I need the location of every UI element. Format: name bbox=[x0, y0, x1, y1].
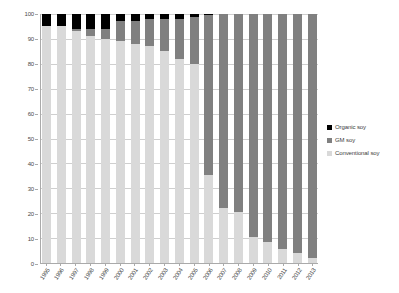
bar-segment-gm-soy bbox=[145, 19, 154, 46]
bar-segment-organic-soy bbox=[57, 14, 66, 26]
bar-2013 bbox=[308, 14, 317, 263]
bar-2007 bbox=[219, 14, 228, 263]
x-axis-tick-mark bbox=[238, 263, 239, 266]
plot-area bbox=[40, 14, 318, 264]
bar-1997 bbox=[72, 14, 81, 263]
bar-segment-gm-soy bbox=[204, 15, 213, 174]
bar-2002 bbox=[145, 14, 154, 263]
x-axis-tick-mark bbox=[253, 263, 254, 266]
bar-segment-conventional-soy bbox=[57, 26, 66, 263]
bar-1996 bbox=[57, 14, 66, 263]
y-axis-tick-mark bbox=[35, 214, 38, 215]
x-axis-label-slot: 2005 bbox=[189, 266, 198, 293]
x-axis-label-slot: 2009 bbox=[249, 266, 258, 293]
x-axis-label-slot: 2001 bbox=[130, 266, 139, 293]
x-axis-tick-label: 2008 bbox=[231, 267, 243, 281]
y-axis-tick-label: 10 bbox=[28, 236, 34, 242]
y-axis-tick-mark bbox=[35, 89, 38, 90]
bar-segment-organic-soy bbox=[131, 14, 140, 21]
bar-2012 bbox=[293, 14, 302, 263]
bar-segment-conventional-soy bbox=[86, 36, 95, 263]
bar-segment-conventional-soy bbox=[263, 242, 272, 263]
x-axis-label-slot: 2006 bbox=[204, 266, 213, 293]
legend-item-organic-soy[interactable]: Organic soy bbox=[327, 124, 399, 130]
legend-item-label: GM soy bbox=[335, 137, 355, 143]
y-axis-tick-label: 60 bbox=[28, 111, 34, 117]
y-axis-tick-mark bbox=[35, 239, 38, 240]
x-axis-tick-label: 2005 bbox=[187, 267, 199, 281]
bar-2009 bbox=[249, 14, 258, 263]
bar-segment-conventional-soy bbox=[278, 249, 287, 263]
x-axis-label-slot: 1999 bbox=[100, 266, 109, 293]
bar-segment-gm-soy bbox=[116, 21, 125, 41]
x-axis-tick-mark bbox=[90, 263, 91, 266]
bar-2005 bbox=[190, 14, 199, 263]
x-axis-label-slot: 2011 bbox=[278, 266, 287, 293]
bar-segment-conventional-soy bbox=[190, 64, 199, 263]
y-axis-tick-label: 20 bbox=[28, 211, 34, 217]
bar-1998 bbox=[86, 14, 95, 263]
x-axis-label-slot: 2013 bbox=[308, 266, 317, 293]
y-axis-tick-mark bbox=[35, 139, 38, 140]
x-axis-tick-label: 1998 bbox=[83, 267, 95, 281]
bar-2004 bbox=[175, 14, 184, 263]
bar-segment-conventional-soy bbox=[160, 51, 169, 263]
bar-segment-organic-soy bbox=[86, 14, 95, 29]
x-axis-tick-label: 2011 bbox=[276, 267, 288, 280]
x-axis-label-slot: 1996 bbox=[56, 266, 65, 293]
bar-2003 bbox=[160, 14, 169, 263]
y-axis-tick-label: 90 bbox=[28, 36, 34, 42]
legend-swatch-icon bbox=[327, 138, 332, 143]
bar-segment-gm-soy bbox=[219, 14, 228, 208]
y-axis-tick-mark bbox=[35, 164, 38, 165]
x-axis-tick-mark bbox=[223, 263, 224, 266]
x-axis-tick-label: 2009 bbox=[246, 267, 258, 281]
bar-segment-conventional-soy bbox=[234, 212, 243, 263]
bar-2011 bbox=[278, 14, 287, 263]
x-axis-label-slot: 2003 bbox=[160, 266, 169, 293]
bar-segment-organic-soy bbox=[101, 14, 110, 29]
bar-segment-gm-soy bbox=[86, 29, 95, 36]
bar-segment-gm-soy bbox=[263, 14, 272, 242]
legend-item-label: Conventional soy bbox=[335, 150, 379, 156]
bar-segment-gm-soy bbox=[101, 29, 110, 39]
bar-segment-gm-soy bbox=[249, 14, 258, 237]
legend-item-conventional-soy[interactable]: Conventional soy bbox=[327, 150, 399, 156]
bar-segment-gm-soy bbox=[234, 14, 243, 212]
x-axis-tick-mark bbox=[283, 263, 284, 266]
y-axis-tick-label: 50 bbox=[28, 136, 34, 142]
x-axis-tick-label: 1995 bbox=[38, 267, 50, 281]
x-axis-tick-label: 1999 bbox=[98, 267, 110, 281]
bar-segment-organic-soy bbox=[116, 14, 125, 21]
bar-1995 bbox=[42, 14, 51, 263]
x-axis-tick-label: 2003 bbox=[157, 267, 169, 281]
y-axis-tick-label: 80 bbox=[28, 61, 34, 67]
legend-swatch-icon bbox=[327, 125, 332, 130]
bar-segment-conventional-soy bbox=[42, 26, 51, 263]
bar-2006 bbox=[204, 14, 213, 263]
x-axis-tick-label: 1997 bbox=[68, 267, 80, 281]
bar-2008 bbox=[234, 14, 243, 263]
x-axis-tick-label: 2002 bbox=[142, 267, 154, 281]
x-axis-tick-label: 2004 bbox=[172, 267, 184, 281]
x-axis-label-slot: 2000 bbox=[115, 266, 124, 293]
y-axis-tick-label: 30 bbox=[28, 186, 34, 192]
y-axis-tick-label: 100 bbox=[25, 11, 34, 17]
y-axis-tick-label: 70 bbox=[28, 86, 34, 92]
x-axis-labels: 1995199619971998199920002001200220032004… bbox=[40, 266, 318, 293]
chart-legend: Organic soyGM soyConventional soy bbox=[327, 124, 399, 156]
legend-swatch-icon bbox=[327, 151, 332, 156]
y-axis-tick-mark bbox=[35, 114, 38, 115]
bar-2000 bbox=[116, 14, 125, 263]
legend-item-gm-soy[interactable]: GM soy bbox=[327, 137, 399, 143]
bar-segment-gm-soy bbox=[308, 14, 317, 258]
x-axis-label-slot: 1997 bbox=[71, 266, 80, 293]
y-axis-tick-mark bbox=[35, 264, 38, 265]
y-axis-tick-mark bbox=[35, 39, 38, 40]
bar-2001 bbox=[131, 14, 140, 263]
x-axis-tick-mark bbox=[164, 263, 165, 266]
x-axis-tick-label: 2010 bbox=[261, 267, 273, 281]
x-axis-label-slot: 2012 bbox=[293, 266, 302, 293]
x-axis-tick-mark bbox=[75, 263, 76, 266]
bar-segment-gm-soy bbox=[160, 19, 169, 51]
